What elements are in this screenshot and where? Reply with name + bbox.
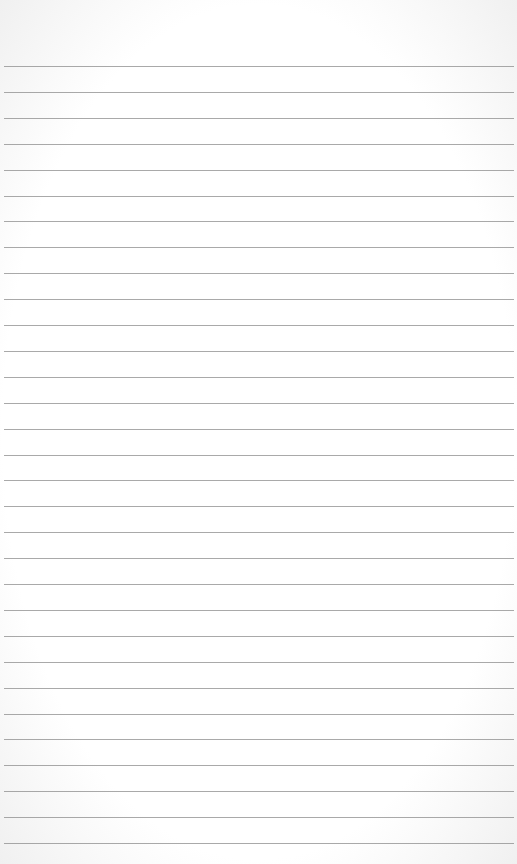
ruled-line <box>4 377 514 378</box>
ruled-line <box>4 66 514 67</box>
ruled-line <box>4 92 514 93</box>
ruled-line <box>4 480 514 481</box>
ruled-line <box>4 843 514 844</box>
ruled-line <box>4 299 514 300</box>
ruled-line <box>4 532 514 533</box>
ruled-line <box>4 662 514 663</box>
ruled-line <box>4 765 514 766</box>
ruled-line <box>4 506 514 507</box>
ruled-line <box>4 714 514 715</box>
ruled-line <box>4 403 514 404</box>
ruled-line <box>4 558 514 559</box>
ruled-line <box>4 221 514 222</box>
ruled-line <box>4 791 514 792</box>
ruled-line <box>4 325 514 326</box>
ruled-line <box>4 455 514 456</box>
ruled-line <box>4 196 514 197</box>
ruled-line <box>4 118 514 119</box>
ruled-line <box>4 429 514 430</box>
ruled-line <box>4 351 514 352</box>
ruled-line <box>4 739 514 740</box>
ruled-line <box>4 584 514 585</box>
ruled-line <box>4 817 514 818</box>
ruled-line <box>4 636 514 637</box>
ruled-line <box>4 247 514 248</box>
ruled-line <box>4 688 514 689</box>
ruled-line <box>4 144 514 145</box>
ruled-line <box>4 610 514 611</box>
lined-paper <box>0 0 517 864</box>
ruled-line <box>4 273 514 274</box>
ruled-line <box>4 170 514 171</box>
